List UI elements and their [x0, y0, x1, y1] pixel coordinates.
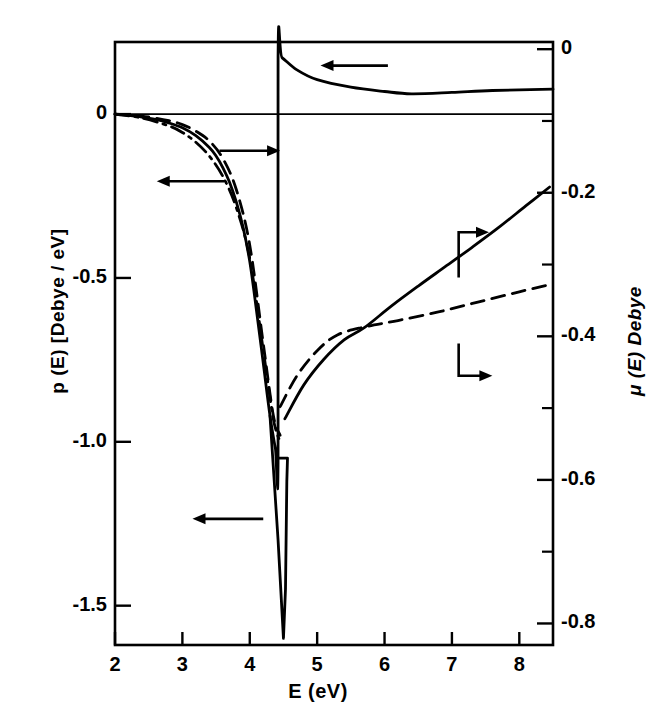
x-tick-label: 4: [230, 653, 270, 676]
axis-ticks-x: [115, 632, 519, 645]
series-path: [285, 187, 550, 419]
arrow-right-upper-annotation: [219, 145, 280, 156]
y-left-axis-title: p (E) [Debye / eV]: [47, 191, 69, 431]
axis-ticks-y-left: [115, 114, 131, 606]
y-right-tick-label: -0.2: [561, 180, 595, 203]
y-right-axis-title: μ (E) Debye: [624, 226, 646, 456]
series-path: [280, 285, 550, 407]
y-left-tick-label: -1.0: [0, 429, 107, 452]
x-tick-label: 6: [365, 653, 405, 676]
y-left-tick-label: -1.5: [0, 593, 107, 616]
y-right-tick-label: -0.4: [561, 323, 595, 346]
x-tick-label: 7: [432, 653, 472, 676]
x-tick-label: 5: [297, 653, 337, 676]
arrow-left-top-annotation: [321, 60, 388, 71]
series-path: [115, 114, 280, 435]
x-tick-label: 2: [95, 653, 135, 676]
annotation-arrows: [157, 60, 493, 524]
x-tick-label: 3: [162, 653, 202, 676]
data-series: [115, 27, 553, 639]
y-right-tick-label: -0.8: [561, 610, 595, 633]
y-left-tick-label: 0: [0, 101, 107, 124]
series-path: [115, 114, 280, 442]
arrow-left-upper-annotation: [157, 176, 224, 187]
axis-ticks-y-right: [537, 49, 553, 623]
y-right-tick-label: -0.6: [561, 467, 595, 490]
x-tick-label: 8: [499, 653, 539, 676]
x-axis-title: E (eV): [228, 680, 408, 703]
arrow-right-mu-lower-annotation: [459, 344, 493, 382]
figure-root: 2345678 0-0.5-1.0-1.5 0-0.2-0.4-0.6-0.8 …: [0, 0, 658, 724]
arrow-left-lower-annotation: [192, 513, 263, 524]
series-path: [115, 27, 553, 489]
y-right-tick-label: 0: [561, 36, 572, 59]
